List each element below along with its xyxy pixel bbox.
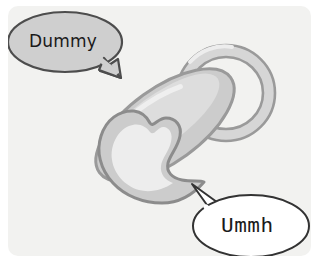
- illustration-stage: Dummy Ummh: [0, 0, 322, 269]
- speech-bubble-dummy-text: Dummy: [29, 31, 97, 51]
- speech-bubble-ummh-text: Ummh: [221, 214, 274, 237]
